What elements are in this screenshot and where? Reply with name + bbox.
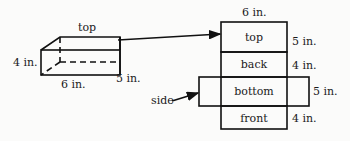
net-width-label: 6 in. [242, 6, 267, 19]
rectangular-prism [41, 37, 120, 75]
net-face-back-dim: 4 in. [292, 59, 317, 72]
net-face-bottom-label: bottom [234, 85, 274, 98]
net-face-top-dim: 5 in. [292, 35, 317, 48]
hidden-edge-diagonal [41, 62, 60, 75]
net-face-front-label: front [240, 112, 268, 125]
box-top-label: top [78, 21, 96, 34]
prism-top-face [41, 37, 120, 50]
box-height-label: 4 in. [13, 56, 38, 69]
net-face-bottom-dim: 5 in. [313, 85, 338, 98]
net-face-back-label: back [241, 58, 268, 71]
top-arrow [118, 34, 220, 40]
net-face-front-dim: 4 in. [292, 112, 317, 125]
box-length-label: 6 in. [61, 78, 86, 91]
box-net-diagram: top 4 in. 6 in. 5 in. 6 in. top 5 in. ba… [0, 0, 350, 141]
side-label: side [151, 94, 174, 107]
box-width-label: 5 in. [116, 72, 141, 85]
side-arrow [172, 93, 198, 101]
net-face-top-label: top [245, 31, 263, 44]
